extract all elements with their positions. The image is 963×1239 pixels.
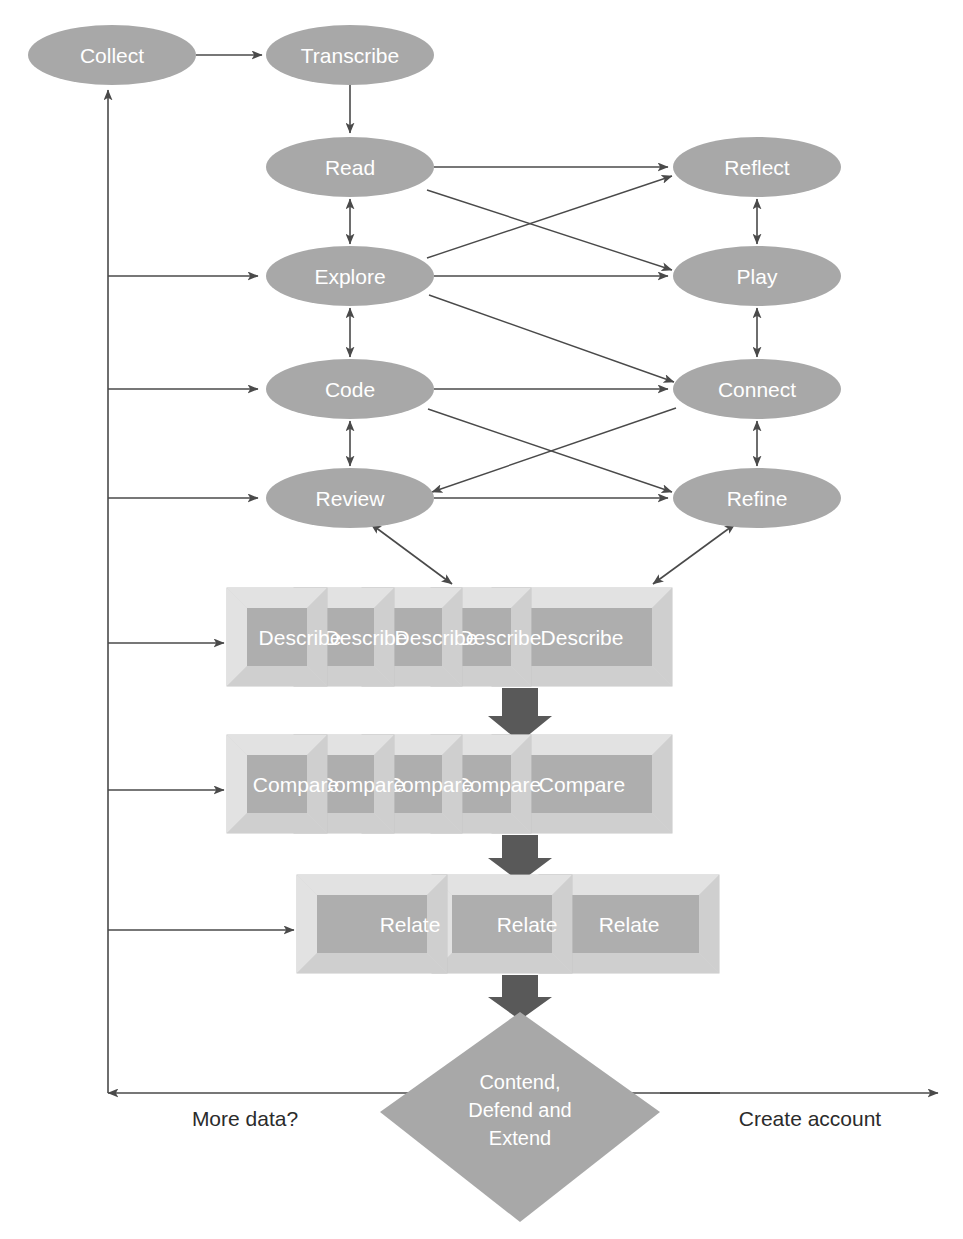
stack-describe[interactable]: Describe Describe Describe	[227, 588, 672, 686]
edge-explore-reflect	[427, 176, 672, 258]
relate-box-1-label: Relate	[380, 913, 441, 936]
node-connect[interactable]: Connect	[673, 359, 841, 419]
node-read[interactable]: Read	[266, 137, 434, 197]
edge-label-more-data: More data?	[192, 1107, 298, 1130]
node-connect-label: Connect	[718, 378, 796, 401]
edge-review-describe	[371, 524, 452, 584]
node-play[interactable]: Play	[673, 246, 841, 306]
describe-box-1-label: Describe	[259, 626, 342, 649]
node-review-label: Review	[316, 487, 386, 510]
node-transcribe-label: Transcribe	[301, 44, 399, 67]
compare-box-1-label: Compare	[253, 773, 339, 796]
node-read-label: Read	[325, 156, 375, 179]
edge-read-play	[427, 190, 672, 270]
node-refine[interactable]: Refine	[673, 468, 841, 528]
flowchart-canvas: Collect Transcribe Read Explore Code Rev…	[0, 0, 963, 1239]
node-explore-label: Explore	[314, 265, 385, 288]
node-explore[interactable]: Explore	[266, 246, 434, 306]
relate-box-2: Relate	[432, 875, 572, 973]
decision-line-3: Extend	[489, 1127, 551, 1149]
edge-explore-connect	[429, 295, 674, 382]
fat-arrow-describe-to-compare	[488, 688, 552, 742]
node-collect[interactable]: Collect	[28, 25, 196, 85]
stack-relate[interactable]: Relate Relate Relate	[297, 875, 719, 973]
compare-box-1: Compare	[227, 735, 339, 833]
decision-line-2: Defend and	[468, 1099, 571, 1121]
flowchart-diagram: Collect Transcribe Read Explore Code Rev…	[0, 0, 963, 1239]
node-transcribe[interactable]: Transcribe	[266, 25, 434, 85]
node-code[interactable]: Code	[266, 359, 434, 419]
node-refine-label: Refine	[727, 487, 788, 510]
node-code-label: Code	[325, 378, 375, 401]
node-play-label: Play	[737, 265, 778, 288]
edge-refine-describe	[653, 524, 735, 584]
describe-box-5-label: Describe	[541, 626, 624, 649]
stack-compare[interactable]: Compare Compare Compare Co	[227, 735, 672, 833]
node-collect-label: Collect	[80, 44, 144, 67]
relate-box-2-label: Relate	[497, 913, 558, 936]
relate-box-1: Relate	[297, 875, 447, 973]
decision-contend-defend-extend[interactable]: Contend, Defend and Extend	[380, 1012, 660, 1222]
node-review[interactable]: Review	[266, 468, 434, 528]
compare-box-5-label: Compare	[539, 773, 625, 796]
describe-box-1: Describe	[227, 588, 341, 686]
node-reflect[interactable]: Reflect	[673, 137, 841, 197]
decision-line-1: Contend,	[479, 1071, 560, 1093]
relate-box-3-label: Relate	[599, 913, 660, 936]
edge-connect-review	[432, 408, 676, 492]
node-reflect-label: Reflect	[724, 156, 790, 179]
cross-connections-group	[427, 167, 676, 498]
edge-label-create-account: Create account	[739, 1107, 882, 1130]
